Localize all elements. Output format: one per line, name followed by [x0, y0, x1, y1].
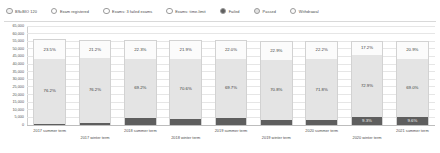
legend-item-label: Withdrawal: [299, 9, 319, 14]
bar-segment-failed[interactable]: [124, 118, 157, 125]
y-axis-tick-label: 30,000: [12, 77, 24, 81]
bar-segment-withdrawal[interactable]: 22.0%: [215, 40, 248, 59]
bar-segment-label: 22.3%: [134, 48, 146, 52]
circle-swatch-icon: [254, 8, 261, 15]
bar-group[interactable]: 22.9%70.8%: [260, 41, 293, 125]
bar-segment-withdrawal[interactable]: 23.5%: [33, 39, 66, 59]
bar-segment-label: 23.5%: [44, 48, 56, 52]
x-axis-tick-label: 2020 summer term: [305, 128, 338, 133]
bar-segment-label: 69.0%: [406, 86, 418, 90]
legend-item-label: Passed: [263, 9, 276, 14]
circle-swatch-icon: [220, 8, 227, 15]
legend-divider: [4, 21, 436, 22]
bar-segment-passed[interactable]: 69.7%: [215, 59, 248, 118]
y-axis-tick-label: 15,000: [12, 100, 24, 104]
bar-segment-label: 72.9%: [361, 84, 373, 88]
bar-segment-label: 20.9%: [406, 48, 418, 52]
bar-group[interactable]: 22.2%71.8%: [305, 41, 338, 125]
circle-swatch-icon: [103, 8, 110, 15]
x-axis-tick-label: 2018 winter term: [171, 135, 200, 140]
bar-group[interactable]: 20.9%69.0%9.6%: [396, 41, 429, 125]
bar-segment-passed[interactable]: 69.0%: [396, 59, 429, 117]
circle-swatch-icon: [166, 8, 173, 15]
bar-segment-label: 9.3%: [362, 119, 372, 123]
y-axis-tick-label: 10,000: [12, 108, 24, 112]
bar-segment-label: 76.2%: [89, 88, 101, 92]
circle-swatch-icon: [290, 8, 297, 15]
bar-segment-label: 22.9%: [270, 49, 282, 53]
bar-group[interactable]: 23.5%76.2%: [33, 39, 66, 125]
bar-segment-label: 69.2%: [134, 86, 146, 90]
bar-segment-withdrawal[interactable]: 22.2%: [305, 41, 338, 60]
x-axis: 2017 summer term2017 winter term2018 sum…: [27, 126, 435, 153]
bar-segment-withdrawal[interactable]: 17.2%: [351, 41, 384, 56]
bar-segment-withdrawal[interactable]: 22.3%: [124, 40, 157, 59]
y-axis-tick-label: 5,000: [14, 115, 24, 119]
legend-item-label: Exams: 3 failed exams: [112, 9, 152, 14]
y-axis-tick-label: 55,000: [12, 39, 24, 43]
x-axis-tick-label: 2019 winter term: [262, 135, 291, 140]
legend-item-label: Failed: [229, 9, 240, 14]
legend-item-withdrawal[interactable]: Withdrawal: [290, 8, 319, 15]
y-axis: 05,00010,00015,00020,00025,00030,00035,0…: [0, 26, 26, 125]
legend-item-label: Exams: time-limit: [175, 9, 205, 14]
legend-item-passed[interactable]: Passed: [254, 8, 276, 15]
bar-segment-passed[interactable]: 76.2%: [79, 58, 112, 123]
legend-item-exams-3-failed-exams[interactable]: Exams: 3 failed exams: [103, 8, 152, 15]
x-axis-tick-label: 2021 summer term: [396, 128, 429, 133]
legend-item-exam-registered[interactable]: Exam registered: [51, 8, 89, 15]
bar-segment-label: 21.9%: [180, 48, 192, 52]
bar-segment-withdrawal[interactable]: 21.9%: [169, 40, 202, 59]
bar-segment-label: 70.6%: [180, 87, 192, 91]
bar-segment-label: 69.7%: [225, 86, 237, 90]
legend-item-label: Exam registered: [60, 9, 89, 14]
y-axis-tick-label: 50,000: [12, 47, 24, 51]
bar-segment-failed[interactable]: [215, 118, 248, 125]
y-axis-tick-label: 65,000: [12, 24, 24, 28]
legend-item-exams-time-limit[interactable]: Exams: time-limit: [166, 8, 205, 15]
bar-segment-label: 76.2%: [44, 89, 56, 93]
bar-segment-passed[interactable]: 70.6%: [169, 59, 202, 119]
bar-segment-withdrawal[interactable]: 22.9%: [260, 41, 293, 60]
bar-segment-label: 22.2%: [316, 48, 328, 52]
bar-segment-passed[interactable]: 72.9%: [351, 55, 384, 117]
gridline: [27, 33, 435, 34]
x-axis-tick-label: 2020 winter term: [353, 135, 382, 140]
bar-segment-label: 17.2%: [361, 46, 373, 50]
bar-segment-failed[interactable]: 9.3%: [351, 117, 384, 125]
y-axis-tick-label: 40,000: [12, 62, 24, 66]
bar-segment-label: 70.8%: [270, 88, 282, 92]
bar-segment-label: 9.6%: [407, 119, 417, 123]
plot-area: 23.5%76.2%21.2%76.2%22.3%69.2%21.9%70.6%…: [27, 26, 435, 125]
bar-segment-withdrawal[interactable]: 20.9%: [396, 41, 429, 59]
x-axis-tick-label: 2018 summer term: [124, 128, 157, 133]
bar-group[interactable]: 21.9%70.6%: [169, 40, 202, 125]
bar-segment-label: 71.8%: [316, 88, 328, 92]
legend-item-bscbio-120[interactable]: BScBIO 120: [6, 8, 37, 15]
x-axis-tick-label: 2019 summer term: [215, 128, 248, 133]
bar-segment-label: 22.0%: [225, 48, 237, 52]
bar-segment-passed[interactable]: 71.8%: [305, 59, 338, 120]
stacked-bar-chart: BScBIO 120Exam registeredExams: 3 failed…: [0, 0, 440, 153]
bar-segment-failed[interactable]: 9.6%: [396, 117, 429, 125]
x-axis-tick-label: 2017 winter term: [81, 135, 110, 140]
y-axis-tick-label: 60,000: [12, 32, 24, 36]
circle-swatch-icon: [51, 8, 58, 15]
bar-group[interactable]: 22.0%69.7%: [215, 40, 248, 125]
bar-segment-passed[interactable]: 76.2%: [33, 59, 66, 124]
legend-item-failed[interactable]: Failed: [220, 8, 240, 15]
bar-segment-passed[interactable]: 69.2%: [124, 59, 157, 118]
bar-segment-withdrawal[interactable]: 21.2%: [79, 40, 112, 58]
bar-group[interactable]: 21.2%76.2%: [79, 40, 112, 125]
gridline: [27, 26, 435, 27]
bar-group[interactable]: 22.3%69.2%: [124, 40, 157, 125]
legend-item-label: BScBIO 120: [15, 9, 37, 14]
y-axis-tick-label: 35,000: [12, 70, 24, 74]
bar-group[interactable]: 17.2%72.9%9.3%: [351, 41, 384, 126]
y-axis-tick-label: 45,000: [12, 54, 24, 58]
y-axis-tick-label: 0: [22, 123, 24, 127]
bar-segment-passed[interactable]: 70.8%: [260, 60, 293, 120]
bar-segment-label: 21.2%: [89, 48, 101, 52]
x-axis-tick-label: 2017 summer term: [33, 128, 66, 133]
y-axis-tick-label: 25,000: [12, 85, 24, 89]
